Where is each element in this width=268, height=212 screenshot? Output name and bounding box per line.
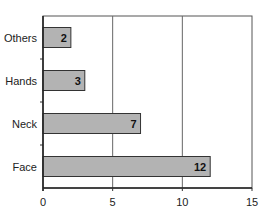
x-tick-label: 15 bbox=[246, 196, 258, 208]
category-label: Others bbox=[4, 32, 38, 44]
category-label: Face bbox=[13, 161, 37, 173]
category-label: Hands bbox=[5, 75, 37, 87]
value-label: 12 bbox=[194, 161, 206, 173]
x-tick-label: 5 bbox=[110, 196, 116, 208]
bar-neck bbox=[43, 114, 141, 134]
value-label: 2 bbox=[61, 32, 67, 44]
bar-chart: 2Others3Hands7Neck12Face051015Patient nu… bbox=[0, 0, 268, 212]
bar-face bbox=[43, 157, 210, 177]
value-label: 7 bbox=[130, 118, 136, 130]
x-tick-label: 0 bbox=[40, 196, 46, 208]
plot-area: 2Others3Hands7Neck12Face051015Patient nu… bbox=[4, 16, 258, 212]
value-label: 3 bbox=[75, 75, 81, 87]
x-tick-label: 10 bbox=[176, 196, 188, 208]
category-label: Neck bbox=[12, 118, 38, 130]
